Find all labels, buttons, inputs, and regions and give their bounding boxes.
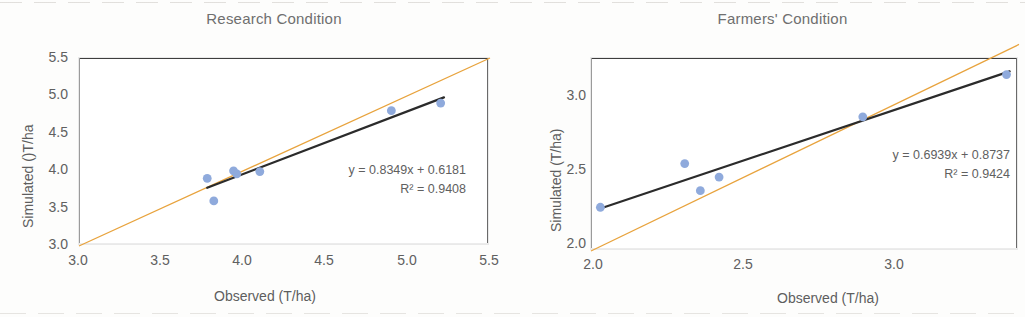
data-point bbox=[209, 196, 218, 205]
regression-equation: y = 0.8349x + 0.6181 bbox=[276, 161, 466, 180]
y-tick-label: 4.5 bbox=[24, 124, 68, 140]
data-point bbox=[596, 203, 605, 212]
chart-panel-research: Research Condition Simulated ()T/ha 5.5 … bbox=[0, 0, 512, 317]
data-point bbox=[203, 174, 212, 183]
data-point bbox=[696, 186, 705, 195]
y-tick-label: 5.5 bbox=[24, 49, 68, 65]
y-tick-label: 4.0 bbox=[24, 161, 68, 177]
regression-annotation-farmers: y = 0.6939x + 0.8737 R² = 0.9424 bbox=[812, 146, 1010, 185]
regression-trendline bbox=[600, 71, 1009, 208]
y-tick-label: 3.0 bbox=[24, 236, 68, 252]
x-tick-label: 5.0 bbox=[387, 252, 427, 268]
data-point bbox=[387, 106, 396, 115]
chart-title-research: Research Condition bbox=[0, 10, 530, 27]
regression-annotation-research: y = 0.8349x + 0.6181 R² = 0.9408 bbox=[276, 161, 466, 200]
y-tick-label: 2.5 bbox=[542, 161, 586, 177]
y-tick-label: 5.0 bbox=[24, 86, 68, 102]
chart-panel-farmers: Farmers' Condition Simulated (T/ha) 3.0 … bbox=[512, 0, 1025, 317]
identity-line bbox=[79, 58, 490, 246]
plot-graphics-research bbox=[79, 58, 490, 246]
x-axis-title-research: Observed (T/ha) bbox=[214, 288, 316, 304]
regression-r2: R² = 0.9424 bbox=[812, 165, 1010, 184]
data-point bbox=[232, 169, 241, 178]
data-point bbox=[858, 112, 867, 121]
plot-area-research bbox=[78, 57, 489, 245]
y-tick-label: 3.0 bbox=[542, 87, 586, 103]
x-tick-label: 3.5 bbox=[140, 252, 180, 268]
data-point bbox=[1002, 70, 1011, 79]
x-tick-label: 5.5 bbox=[469, 252, 509, 268]
regression-equation: y = 0.6939x + 0.8737 bbox=[812, 146, 1010, 165]
data-point bbox=[715, 173, 724, 182]
x-axis-title-farmers: Observed (T/ha) bbox=[777, 290, 879, 306]
figure-canvas: Research Condition Simulated ()T/ha 5.5 … bbox=[0, 0, 1025, 317]
x-tick-label: 4.0 bbox=[222, 252, 262, 268]
data-point bbox=[680, 159, 689, 168]
chart-title-farmers: Farmers' Condition bbox=[512, 10, 1025, 27]
x-tick-label: 4.5 bbox=[304, 252, 344, 268]
y-tick-label: 2.0 bbox=[542, 235, 586, 251]
regression-r2: R² = 0.9408 bbox=[276, 180, 466, 199]
x-tick-label: 3.0 bbox=[874, 256, 914, 272]
data-point bbox=[436, 99, 445, 108]
data-point bbox=[255, 167, 264, 176]
x-tick-label: 2.5 bbox=[723, 256, 763, 272]
x-tick-label: 3.0 bbox=[58, 252, 98, 268]
x-tick-label: 2.0 bbox=[573, 256, 613, 272]
y-tick-label: 3.5 bbox=[24, 199, 68, 215]
y-axis-title-farmers: Simulated (T/ha) bbox=[548, 129, 564, 232]
